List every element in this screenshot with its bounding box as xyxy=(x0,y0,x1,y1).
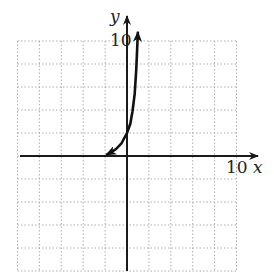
axes xyxy=(20,16,258,271)
x-axis-label: x xyxy=(253,157,263,177)
x-tick-label: 10 xyxy=(226,157,248,177)
y-tick-label: 10 xyxy=(110,30,132,50)
exponential-curve xyxy=(106,32,138,155)
coordinate-plane xyxy=(0,0,274,277)
y-axis-label: y xyxy=(110,6,120,26)
